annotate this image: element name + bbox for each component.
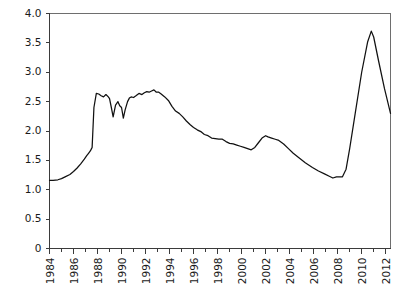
data-series-line (50, 31, 391, 180)
line-chart: 00.51.01.52.02.53.03.54.0 19841986198819… (0, 0, 408, 301)
y-tick-label: 2.0 (25, 124, 42, 136)
x-tick-label: 1996 (188, 257, 200, 284)
x-tick-label: 1990 (116, 258, 128, 285)
x-axis-tick-labels: 1984198619881990199219941996199820002002… (44, 257, 392, 284)
y-tick-label: 3.5 (25, 36, 42, 48)
x-tick-label: 2002 (260, 258, 272, 285)
x-tick-label: 2012 (380, 258, 392, 285)
y-tick-label: 2.5 (25, 95, 42, 107)
x-tick-label: 1992 (140, 258, 152, 285)
x-tick-label: 1988 (92, 258, 104, 285)
y-axis-tick-labels: 00.51.01.52.02.53.03.54.0 (25, 7, 42, 254)
y-axis-tick-marks (46, 14, 50, 249)
x-tick-label: 1984 (44, 257, 56, 284)
x-tick-label: 1994 (164, 257, 176, 284)
y-tick-label: 4.0 (25, 7, 42, 19)
x-tick-label: 2010 (356, 258, 368, 285)
x-tick-label: 2008 (332, 258, 344, 285)
x-tick-label: 2006 (308, 257, 320, 284)
x-tick-label: 2000 (236, 258, 248, 285)
x-tick-label: 2004 (284, 257, 296, 284)
y-tick-label: 1.5 (25, 153, 42, 165)
y-tick-label: 0 (35, 242, 42, 254)
y-tick-label: 1.0 (25, 183, 42, 195)
plot-area-frame (50, 14, 391, 249)
y-tick-label: 3.0 (25, 65, 42, 77)
x-axis-tick-marks (50, 249, 386, 254)
chart-canvas: 00.51.01.52.02.53.03.54.0 19841986198819… (0, 0, 408, 301)
x-tick-label: 1998 (212, 258, 224, 285)
x-tick-label: 1986 (68, 257, 80, 284)
y-tick-label: 0.5 (25, 212, 42, 224)
